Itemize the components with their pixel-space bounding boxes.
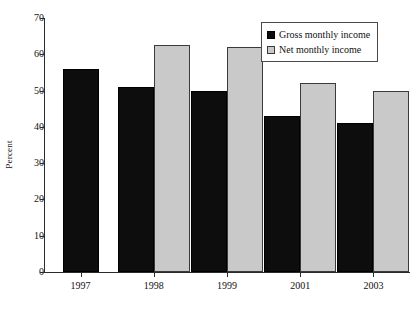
bar (300, 83, 336, 272)
x-tick-mark (227, 272, 228, 277)
gray-square-icon (267, 46, 275, 54)
x-tick-mark (373, 272, 374, 277)
bar (191, 91, 227, 272)
legend-item-net: Net monthly income (267, 42, 370, 57)
bar (264, 116, 300, 272)
bar (373, 91, 409, 272)
y-tick-mark (40, 18, 44, 19)
bar (154, 45, 190, 272)
y-axis-title: Percent (0, 0, 18, 309)
x-tick-label: 1999 (192, 280, 262, 291)
y-tick-label: 10 (4, 230, 44, 242)
bar (63, 69, 99, 272)
y-tick-label: 30 (4, 157, 44, 169)
bar (118, 87, 154, 272)
y-tick-mark (40, 127, 44, 128)
black-square-icon (267, 31, 275, 39)
x-tick-label: 1997 (46, 280, 116, 291)
bar (227, 47, 263, 272)
legend-item-gross: Gross monthly income (267, 27, 370, 42)
x-tick-mark (300, 272, 301, 277)
y-tick-label: 0 (4, 266, 44, 278)
legend-label-gross: Gross monthly income (279, 29, 370, 40)
x-tick-mark (154, 272, 155, 277)
y-tick-label: 70 (4, 12, 44, 24)
legend-label-net: Net monthly income (279, 44, 361, 55)
bar (337, 123, 373, 272)
y-tick-mark (40, 54, 44, 55)
x-tick-label: 2003 (338, 280, 408, 291)
y-tick-label: 50 (4, 85, 44, 97)
y-tick-mark (40, 163, 44, 164)
y-tick-mark (40, 91, 44, 92)
y-tick-mark (40, 199, 44, 200)
x-tick-label: 1998 (119, 280, 189, 291)
y-tick-label: 20 (4, 193, 44, 205)
x-tick-label: 2001 (265, 280, 335, 291)
bar-chart: Percent 010203040506070 1997199819992001… (0, 0, 420, 309)
y-tick-label: 40 (4, 121, 44, 133)
y-axis-line (44, 18, 45, 272)
y-tick-label: 60 (4, 48, 44, 60)
y-tick-mark (40, 236, 44, 237)
x-tick-mark (81, 272, 82, 277)
y-tick-mark (40, 272, 44, 273)
chart-legend: Gross monthly income Net monthly income (261, 22, 378, 62)
